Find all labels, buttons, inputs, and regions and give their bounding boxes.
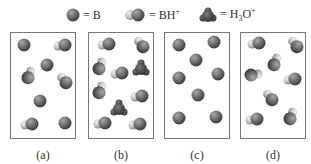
b-sphere-icon (173, 39, 186, 52)
legend-label-bh: = BH+ (149, 7, 180, 23)
bh-plus-icon (55, 70, 75, 92)
bh-plus-icon (19, 65, 39, 87)
bh-plus-icon (90, 56, 110, 78)
bh-plus-icon (94, 117, 112, 130)
particles-a (11, 33, 77, 140)
b-sphere-icon (34, 95, 47, 108)
b-sphere-icon (212, 68, 225, 81)
bh-plus-icon (284, 73, 302, 86)
bh-plus-icon (131, 90, 149, 103)
legend-item-bh: = BH+ (124, 4, 180, 26)
bh-plus-icon (54, 39, 72, 52)
legend-label-b: = B (83, 8, 101, 23)
bh-plus-icon (246, 113, 264, 126)
b-sphere-icon (208, 36, 221, 49)
panel-label-b: (b) (101, 148, 141, 163)
hydronium-icon (133, 60, 150, 76)
panel-a (10, 32, 76, 139)
legend-item-h3o: = H3O+ (199, 4, 256, 26)
legend: = B = BH+ = H3O+ (0, 4, 311, 26)
particles-d (241, 33, 307, 140)
panel-label-d: (d) (253, 148, 293, 163)
b-sphere-icon (173, 112, 186, 125)
bh-plus-icon (265, 52, 285, 74)
legend-label-h3o: = H3O+ (220, 6, 256, 23)
bh-plus-icon (111, 67, 129, 80)
b-sphere-icon (18, 39, 31, 52)
b-sphere-icon (41, 59, 54, 72)
bh-plus-icon (245, 69, 263, 82)
panel-b (88, 32, 154, 139)
b-sphere-icon (66, 8, 80, 22)
bh-plus-icon (248, 37, 266, 50)
b-sphere-icon (210, 111, 223, 124)
bh-plus-icon (281, 106, 301, 128)
panel-d (240, 32, 306, 139)
bh-plus-icon (129, 118, 147, 131)
hydronium-icon (199, 7, 217, 23)
bh-plus-icon (98, 38, 116, 51)
hydronium-icon (111, 100, 128, 116)
b-sphere-icon (190, 54, 203, 67)
bh-plus-icon (21, 118, 39, 131)
particles-b (89, 33, 155, 140)
b-sphere-icon (192, 89, 205, 102)
particles-c (165, 33, 231, 140)
b-sphere-icon (59, 117, 72, 130)
panel-c (164, 32, 230, 139)
bh-plus-icon (261, 87, 281, 109)
panel-label-a: (a) (23, 148, 63, 163)
bh-plus-icon (90, 80, 110, 102)
bh-plus-icon (124, 8, 146, 22)
bh-plus-icon (286, 34, 306, 56)
bh-plus-icon (132, 34, 152, 56)
b-sphere-icon (173, 72, 186, 85)
panel-label-c: (c) (177, 148, 217, 163)
legend-item-b: = B (66, 4, 101, 26)
